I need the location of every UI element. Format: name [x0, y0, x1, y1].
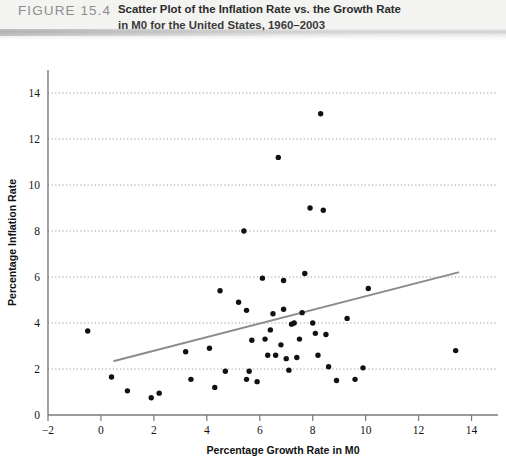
data-point — [254, 379, 259, 384]
data-point-series — [85, 111, 458, 400]
data-point — [281, 307, 286, 312]
data-point — [281, 278, 286, 283]
x-tick-label: 14 — [466, 424, 478, 436]
x-axis-title: Percentage Growth Rate in M0 — [206, 444, 359, 456]
y-tick-label: 10 — [29, 179, 41, 191]
figure-header: FIGURE 15.4 Scatter Plot of the Inflatio… — [0, 0, 506, 40]
data-point — [268, 327, 273, 332]
data-point — [284, 356, 289, 361]
data-point — [344, 316, 349, 321]
data-point — [212, 385, 217, 390]
data-point — [315, 353, 320, 358]
data-point — [246, 369, 251, 374]
data-point — [125, 388, 130, 393]
data-point — [149, 395, 154, 400]
x-tick-label: 0 — [98, 424, 104, 436]
data-point — [366, 286, 371, 291]
y-tick-label: 12 — [29, 133, 41, 145]
data-point — [352, 377, 357, 382]
data-point — [223, 369, 228, 374]
data-point — [270, 311, 275, 316]
gridlines — [48, 93, 496, 369]
x-tick-label: −2 — [42, 424, 54, 436]
data-point — [241, 228, 246, 233]
x-axis-tick-labels: −202468101214 — [42, 424, 478, 436]
y-tick-label: 8 — [34, 225, 40, 237]
data-point — [291, 320, 296, 325]
data-point — [334, 378, 339, 383]
y-tick-label: 6 — [34, 271, 40, 283]
data-point — [244, 377, 249, 382]
y-tick-label: 14 — [29, 87, 41, 99]
data-point — [85, 328, 90, 333]
x-tick-label: 12 — [413, 424, 425, 436]
data-point — [360, 365, 365, 370]
data-point — [188, 377, 193, 382]
x-tick-label: 6 — [257, 424, 263, 436]
data-point — [297, 336, 302, 341]
data-point — [217, 288, 222, 293]
y-axis-tick-labels: 02468101214 — [29, 87, 41, 421]
data-point — [109, 374, 114, 379]
data-point — [260, 275, 265, 280]
x-axis-ticks — [48, 415, 472, 421]
data-point — [318, 111, 323, 116]
x-tick-label: 10 — [360, 424, 372, 436]
data-point — [302, 271, 307, 276]
figure-number-label: FIGURE 15.4 — [18, 3, 111, 18]
data-point — [207, 346, 212, 351]
y-axis-title: Percentage Inflation Rate — [6, 179, 18, 306]
data-point — [265, 353, 270, 358]
data-point — [286, 367, 291, 372]
data-point — [278, 342, 283, 347]
axes — [48, 70, 498, 415]
data-point — [249, 338, 254, 343]
y-tick-label: 2 — [34, 363, 40, 375]
data-point — [156, 390, 161, 395]
data-point — [244, 308, 249, 313]
figure-caption-line-2: in M0 for the United States, 1960–2003 — [118, 18, 500, 34]
data-point — [262, 336, 267, 341]
y-tick-label: 0 — [34, 409, 40, 421]
y-tick-label: 4 — [34, 317, 40, 329]
figure-caption: Scatter Plot of the Inflation Rate vs. t… — [118, 2, 500, 33]
data-point — [313, 331, 318, 336]
data-point — [323, 332, 328, 337]
data-point — [183, 349, 188, 354]
x-tick-label: 4 — [204, 424, 210, 436]
data-point — [299, 310, 304, 315]
data-point — [307, 205, 312, 210]
data-point — [294, 355, 299, 360]
data-point — [326, 364, 331, 369]
x-tick-label: 8 — [310, 424, 316, 436]
data-point — [236, 300, 241, 305]
data-point — [453, 348, 458, 353]
trend-line-segment — [114, 272, 458, 361]
data-point — [321, 208, 326, 213]
trend-line — [114, 272, 458, 361]
x-tick-label: 2 — [151, 424, 157, 436]
data-point — [273, 353, 278, 358]
data-point — [310, 320, 315, 325]
plot-svg: −202468101214 02468101214 Percentage Gro… — [0, 48, 506, 458]
scatter-plot: −202468101214 02468101214 Percentage Gro… — [0, 48, 506, 458]
data-point — [276, 155, 281, 160]
figure-caption-line-1: Scatter Plot of the Inflation Rate vs. t… — [118, 2, 500, 18]
